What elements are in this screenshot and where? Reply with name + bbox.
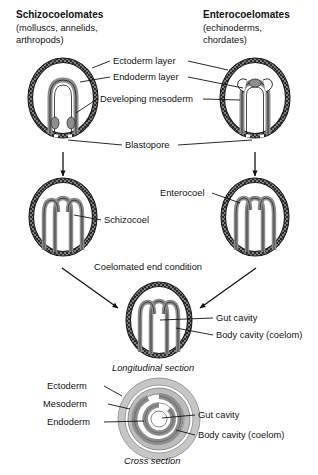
- cross-gut-cavity-label: Gut cavity: [198, 410, 240, 420]
- left-column-subtitle-line2: arthropods): [16, 35, 64, 45]
- embryo-development-diagram: Schizocoelomates (molluscs, annelids, ar…: [0, 0, 318, 475]
- body-cavity-label-longitudinal: Body cavity (coelom): [216, 330, 302, 340]
- schizocoel-label: Schizocoel: [104, 215, 149, 225]
- arrow-right-to-coelomate: [200, 268, 256, 308]
- stage1-right-embryo: [220, 58, 290, 138]
- cross-endoderm-label: Endoderm: [47, 417, 90, 427]
- column-header-right: Enterocoelomates (echinoderms, chordates…: [203, 9, 290, 45]
- stage3-coelomate-embryo: [126, 282, 192, 358]
- column-header-left: Schizocoelomates (molluscs, annelids, ar…: [16, 9, 104, 45]
- longitudinal-section-caption: Longitudinal section: [112, 363, 194, 373]
- cross-section-diagram: [118, 378, 200, 460]
- stage2-right-embryo: [221, 178, 289, 256]
- arrow-left-to-coelomate: [62, 268, 118, 308]
- left-column-subtitle-line1: (molluscs, annelids,: [16, 23, 98, 33]
- developing-mesoderm-label: Developing mesoderm: [100, 94, 193, 104]
- stage1-left-embryo: [28, 58, 98, 138]
- ectoderm-layer-label: Ectoderm layer: [113, 56, 176, 66]
- right-column-subtitle-line2: chordates): [203, 35, 247, 45]
- coelomated-end-condition-heading: Coelomated end condition: [94, 262, 202, 272]
- cross-section-caption: Cross section: [124, 456, 180, 466]
- right-column-title: Enterocoelomates: [203, 9, 290, 20]
- left-column-title: Schizocoelomates: [16, 9, 104, 20]
- endoderm-layer-label: Endoderm layer: [113, 72, 179, 82]
- gut-cavity-label-longitudinal: Gut cavity: [216, 313, 258, 323]
- right-column-subtitle-line1: (echinoderms,: [203, 23, 262, 33]
- cross-mesoderm-label: Mesoderm: [43, 399, 87, 409]
- stage2-label-group: Schizocoel Enterocoel: [74, 188, 240, 225]
- enterocoel-label: Enterocoel: [160, 188, 204, 198]
- blastopore-label: Blastopore: [125, 140, 169, 150]
- cross-body-cavity-label: Body cavity (coelom): [198, 430, 284, 440]
- cross-ectoderm-label: Ectoderm: [47, 381, 87, 391]
- figure-canvas: Schizocoelomates (molluscs, annelids, ar…: [0, 0, 318, 475]
